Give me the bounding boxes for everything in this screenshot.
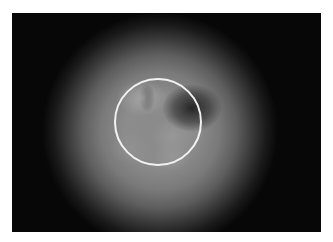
endoscopic-image [12,13,321,232]
region-of-interest-circle [114,78,202,166]
